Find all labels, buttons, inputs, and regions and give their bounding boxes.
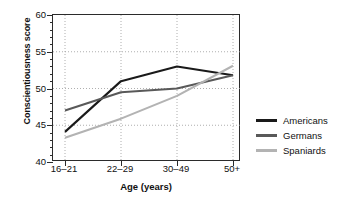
legend-swatch-icon xyxy=(256,149,277,152)
legend-swatch-icon xyxy=(256,134,277,137)
y-minor-tick xyxy=(50,133,54,134)
x-tick-label: 50+ xyxy=(224,163,240,174)
y-major-tick xyxy=(47,125,53,126)
line-chart-figure: Conscientiousness score 4045505560 16–21… xyxy=(0,0,355,206)
series-lines xyxy=(65,66,233,138)
legend-swatch-icon xyxy=(256,119,277,122)
y-minor-tick xyxy=(50,118,54,119)
y-major-tick xyxy=(47,15,53,16)
y-minor-tick xyxy=(50,66,54,67)
chart-legend: AmericansGermansSpaniards xyxy=(256,113,352,158)
y-minor-tick xyxy=(50,147,54,148)
y-minor-tick xyxy=(50,96,54,97)
y-tick-label: 45 xyxy=(24,119,46,130)
legend-item[interactable]: Spaniards xyxy=(256,143,352,158)
series-line-americans xyxy=(65,66,233,131)
y-axis-tick-labels: 4045505560 xyxy=(24,0,46,206)
gridlines xyxy=(53,15,241,162)
legend-label: Germans xyxy=(283,130,322,141)
y-minor-tick xyxy=(50,103,54,104)
y-tick-label: 60 xyxy=(24,9,46,20)
y-minor-tick xyxy=(50,81,54,82)
plot-area xyxy=(52,14,240,161)
legend-item[interactable]: Germans xyxy=(256,128,352,143)
x-tick-label: 30–49 xyxy=(163,163,189,174)
y-minor-tick xyxy=(50,22,54,23)
y-tick-label: 40 xyxy=(24,156,46,167)
legend-label: Spaniards xyxy=(283,145,326,156)
y-tick-label: 55 xyxy=(24,45,46,56)
y-minor-tick xyxy=(50,44,54,45)
legend-item[interactable]: Americans xyxy=(256,113,352,128)
x-tick-label: 16–21 xyxy=(51,163,77,174)
y-minor-tick xyxy=(50,59,54,60)
y-major-tick xyxy=(47,89,53,90)
y-minor-tick xyxy=(50,111,54,112)
plot-svg xyxy=(53,15,241,162)
x-axis-tick-labels: 16–2122–2930–4950+ xyxy=(52,163,240,179)
y-minor-tick xyxy=(50,74,54,75)
x-tick-label: 22–29 xyxy=(107,163,133,174)
y-minor-tick xyxy=(50,30,54,31)
y-major-tick xyxy=(47,52,53,53)
x-axis-title: Age (years) xyxy=(52,181,240,192)
y-minor-tick xyxy=(50,140,54,141)
legend-label: Americans xyxy=(283,115,328,126)
y-tick-label: 50 xyxy=(24,82,46,93)
y-minor-tick xyxy=(50,37,54,38)
y-minor-tick xyxy=(50,155,54,156)
series-line-germans xyxy=(65,75,233,110)
